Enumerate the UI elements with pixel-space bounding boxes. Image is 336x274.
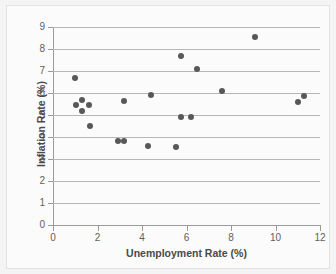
x-axis-tick [276,226,277,231]
data-point [148,92,154,98]
x-axis-tick [320,226,321,231]
chart-frame: 0123456789 024681012 Unemployment Rate (… [6,5,330,269]
x-axis-tick-label: 4 [127,232,157,243]
x-axis-tick-label: 12 [305,232,335,243]
x-axis-tick [53,226,54,231]
data-point [252,34,258,40]
data-point [219,88,225,94]
data-point [115,138,121,144]
data-point [73,102,79,108]
y-axis-tick-label: 0 [5,220,45,230]
y-axis-tick-label: 1 [5,198,45,208]
x-axis-tick [231,226,232,231]
data-point [145,143,151,149]
chart-figure: 0123456789 024681012 Unemployment Rate (… [0,0,336,274]
data-point [173,144,179,150]
data-point [72,75,78,81]
data-point [295,99,301,105]
data-point [178,114,184,120]
data-point [194,66,200,72]
x-axis-tick [187,226,188,231]
x-axis-tick-label: 0 [38,232,68,243]
plot-area [53,27,320,225]
x-axis-tick-label: 8 [216,232,246,243]
x-axis-tick [98,226,99,231]
data-point [121,98,127,104]
x-axis-tick-label: 6 [172,232,202,243]
data-point [301,93,307,99]
data-point [79,108,85,114]
data-point [178,53,184,59]
data-point [188,114,194,120]
data-point [121,138,127,144]
x-axis-title: Unemployment Rate (%) [53,247,320,259]
y-axis-tick-label: 9 [5,22,45,32]
y-axis-title: Inflation Rate (%) [35,49,47,199]
data-point [79,97,85,103]
x-axis-tick-label: 2 [83,232,113,243]
x-axis-tick [142,226,143,231]
data-point [86,102,92,108]
data-point [87,123,93,129]
x-axis-tick-label: 10 [261,232,291,243]
